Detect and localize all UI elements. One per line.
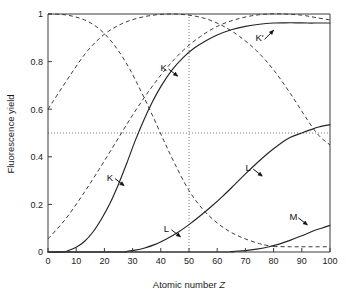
x-tick-label-100: 100 <box>322 256 337 266</box>
y-tick-label-0.8: 0.8 <box>30 57 43 67</box>
y-axis-title: Fluorescence yield <box>5 94 16 173</box>
l-solid-upper-label: L <box>246 162 251 173</box>
x-tick-label-20: 20 <box>99 256 109 266</box>
y-tick-label-0.4: 0.4 <box>30 152 43 162</box>
figure-container: 010203040506070809010000.20.40.60.81 KKK… <box>0 0 349 296</box>
x-tick-label-30: 30 <box>128 256 138 266</box>
x-tick-label-40: 40 <box>156 256 166 266</box>
x-tick-label-10: 10 <box>71 256 81 266</box>
x-tick-label-80: 80 <box>269 256 279 266</box>
x-tick-label-70: 70 <box>240 256 250 266</box>
y-tick-label-1: 1 <box>38 9 43 19</box>
x-tick-label-90: 90 <box>297 256 307 266</box>
x-tick-label-50: 50 <box>184 256 194 266</box>
x-tick-label-0: 0 <box>45 256 50 266</box>
x-tick-label-60: 60 <box>212 256 222 266</box>
y-tick-label-0.2: 0.2 <box>30 200 43 210</box>
l-solid-lower-label: L <box>164 223 169 234</box>
k-solid-lower-label: K <box>107 172 114 183</box>
y-tick-label-0: 0 <box>38 247 43 257</box>
fluorescence-yield-chart: 010203040506070809010000.20.40.60.81 KKK… <box>0 0 349 296</box>
y-tick-label-0.6: 0.6 <box>30 105 43 115</box>
m-solid-label: M <box>289 211 297 222</box>
k-solid-upper-label: K <box>160 62 167 73</box>
k-prime-label: K' <box>255 32 263 43</box>
x-axis-title: Atomic number Z <box>153 279 227 290</box>
